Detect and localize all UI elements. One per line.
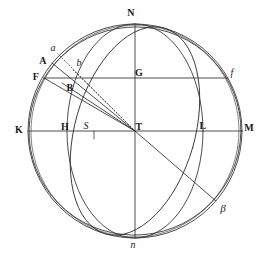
celestial-sphere-figure: N a A b F G f B K H S T L M β n [0,0,264,262]
label-point-S: S [84,121,89,131]
label-point-f: f [231,68,234,78]
label-point-beta: β [220,203,225,214]
label-north-pole: N [127,8,134,18]
label-point-B: B [67,83,74,93]
label-point-L: L [200,121,207,131]
figure-canvas [0,0,264,262]
label-point-H: H [61,122,69,132]
label-point-G: G [135,68,143,78]
label-point-K: K [15,125,23,135]
label-point-A: A [39,56,46,66]
label-south-pole: n [131,240,136,250]
label-point-a: a [51,43,56,53]
ray-T-beta [135,131,216,201]
label-point-M: M [244,123,254,133]
label-point-F: F [33,72,39,82]
label-point-b: b [77,58,82,68]
label-point-T: T [136,122,143,132]
